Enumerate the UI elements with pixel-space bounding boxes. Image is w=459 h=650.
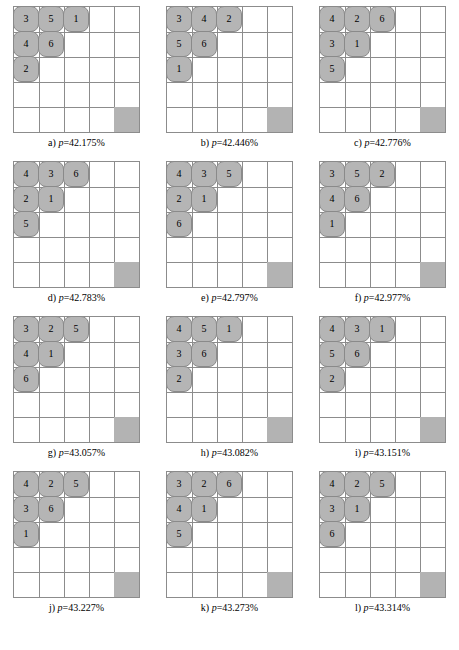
piece-3: 3 bbox=[166, 6, 192, 32]
filled-cell bbox=[420, 262, 445, 287]
piece-4: 4 bbox=[319, 6, 345, 32]
piece-1: 1 bbox=[13, 521, 39, 547]
piece-4: 4 bbox=[319, 471, 345, 497]
filled-cell bbox=[267, 107, 292, 132]
piece-3: 3 bbox=[319, 31, 345, 57]
panel-caption-l: l) p=43.314% bbox=[355, 602, 410, 613]
grid-line-horizontal bbox=[167, 82, 292, 83]
piece-1: 1 bbox=[191, 186, 217, 212]
piece-5: 5 bbox=[216, 161, 242, 187]
piece-4: 4 bbox=[166, 316, 192, 342]
piece-1: 1 bbox=[369, 316, 395, 342]
filled-cell bbox=[267, 572, 292, 597]
piece-5: 5 bbox=[63, 471, 89, 497]
panel-j: 425361j) p=43.227% bbox=[0, 471, 153, 626]
caption-p-value: 42.776% bbox=[375, 137, 411, 148]
caption-label: j) bbox=[49, 602, 55, 613]
board-e: 435216 bbox=[166, 161, 293, 288]
panel-g: 325416g) p=43.057% bbox=[0, 316, 153, 471]
piece-1: 1 bbox=[344, 31, 370, 57]
grid-line-vertical bbox=[89, 472, 90, 597]
caption-p-value: 43.273% bbox=[222, 602, 258, 613]
piece-6: 6 bbox=[38, 31, 64, 57]
piece-2: 2 bbox=[38, 316, 64, 342]
piece-3: 3 bbox=[319, 161, 345, 187]
piece-6: 6 bbox=[369, 6, 395, 32]
panel-caption-a: a) p=42.175% bbox=[48, 137, 105, 148]
caption-p-value: 42.783% bbox=[69, 292, 105, 303]
caption-p-value: 43.057% bbox=[69, 447, 105, 458]
panel-k: 326415k) p=43.273% bbox=[153, 471, 306, 626]
piece-2: 2 bbox=[13, 56, 39, 82]
panel-caption-j: j) p=43.227% bbox=[49, 602, 104, 613]
caption-label: d) bbox=[48, 292, 56, 303]
grid-line-vertical bbox=[242, 472, 243, 597]
piece-6: 6 bbox=[344, 341, 370, 367]
grid-line-horizontal bbox=[167, 392, 292, 393]
piece-1: 1 bbox=[319, 211, 345, 237]
caption-p-value: 42.446% bbox=[222, 137, 258, 148]
piece-2: 2 bbox=[344, 471, 370, 497]
grid-line-horizontal bbox=[14, 237, 139, 238]
piece-2: 2 bbox=[319, 366, 345, 392]
piece-3: 3 bbox=[13, 6, 39, 32]
piece-4: 4 bbox=[13, 161, 39, 187]
piece-1: 1 bbox=[38, 341, 64, 367]
piece-6: 6 bbox=[38, 496, 64, 522]
caption-label: h) bbox=[201, 447, 209, 458]
board-k: 326415 bbox=[166, 471, 293, 598]
panel-f: 352461f) p=42.977% bbox=[306, 161, 459, 316]
caption-p-value: 42.977% bbox=[374, 292, 410, 303]
grid-line-horizontal bbox=[320, 237, 445, 238]
panel-d: 436215d) p=42.783% bbox=[0, 161, 153, 316]
packing-figure: 351462a) p=42.175%342561b) p=42.446%4263… bbox=[0, 0, 459, 650]
caption-label: e) bbox=[201, 292, 209, 303]
grid-line-vertical bbox=[89, 317, 90, 442]
filled-cell bbox=[267, 262, 292, 287]
panel-caption-h: h) p=43.082% bbox=[201, 447, 258, 458]
piece-4: 4 bbox=[13, 341, 39, 367]
grid-line-vertical bbox=[89, 162, 90, 287]
piece-1: 1 bbox=[191, 496, 217, 522]
filled-cell bbox=[420, 107, 445, 132]
caption-label: g) bbox=[48, 447, 56, 458]
panel-h: 451362h) p=43.082% bbox=[153, 316, 306, 471]
piece-4: 4 bbox=[191, 6, 217, 32]
piece-5: 5 bbox=[166, 521, 192, 547]
piece-4: 4 bbox=[13, 471, 39, 497]
panel-caption-e: e) p=42.797% bbox=[201, 292, 258, 303]
piece-1: 1 bbox=[216, 316, 242, 342]
panel-caption-d: d) p=42.783% bbox=[48, 292, 105, 303]
piece-5: 5 bbox=[319, 56, 345, 82]
grid-line-vertical bbox=[242, 7, 243, 132]
piece-1: 1 bbox=[166, 56, 192, 82]
piece-3: 3 bbox=[13, 496, 39, 522]
caption-label: c) bbox=[354, 137, 362, 148]
grid-line-vertical bbox=[89, 7, 90, 132]
piece-6: 6 bbox=[344, 186, 370, 212]
grid-line-horizontal bbox=[14, 547, 139, 548]
piece-3: 3 bbox=[166, 341, 192, 367]
filled-cell bbox=[114, 107, 139, 132]
grid-line-vertical bbox=[242, 162, 243, 287]
piece-6: 6 bbox=[13, 366, 39, 392]
board-a: 351462 bbox=[13, 6, 140, 133]
piece-4: 4 bbox=[166, 496, 192, 522]
panel-caption-g: g) p=43.057% bbox=[48, 447, 105, 458]
panel-grid: 351462a) p=42.175%342561b) p=42.446%4263… bbox=[0, 0, 459, 626]
caption-p-value: 43.151% bbox=[374, 447, 410, 458]
piece-1: 1 bbox=[63, 6, 89, 32]
panel-i: 431562i) p=43.151% bbox=[306, 316, 459, 471]
piece-2: 2 bbox=[166, 186, 192, 212]
caption-p-value: 43.082% bbox=[222, 447, 258, 458]
piece-2: 2 bbox=[166, 366, 192, 392]
filled-cell bbox=[114, 262, 139, 287]
filled-cell bbox=[267, 417, 292, 442]
grid-line-vertical bbox=[395, 7, 396, 132]
piece-6: 6 bbox=[319, 521, 345, 547]
piece-2: 2 bbox=[191, 471, 217, 497]
panel-b: 342561b) p=42.446% bbox=[153, 6, 306, 161]
panel-caption-f: f) p=42.977% bbox=[355, 292, 411, 303]
piece-5: 5 bbox=[369, 471, 395, 497]
piece-2: 2 bbox=[38, 471, 64, 497]
